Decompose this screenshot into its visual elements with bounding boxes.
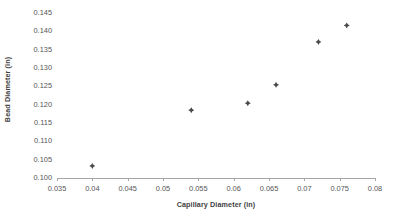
- y-tick-label: 0.140: [4, 26, 52, 35]
- x-tick-mark: [128, 178, 129, 181]
- x-tick-mark: [269, 178, 270, 181]
- data-point: [273, 82, 279, 88]
- scatter-chart: Bead Diameter (in) 0.1000.1050.1100.1150…: [0, 0, 404, 221]
- data-point: [315, 39, 321, 45]
- data-point: [188, 107, 194, 113]
- data-point: [89, 163, 95, 169]
- y-tick-label: 0.130: [4, 63, 52, 72]
- y-tick-label: 0.120: [4, 100, 52, 109]
- y-tick-label: 0.125: [4, 81, 52, 90]
- gridline-horizontal: [57, 178, 375, 179]
- x-axis-title: Capillary Diameter (in): [57, 200, 375, 209]
- y-tick-label: 0.115: [4, 118, 52, 127]
- x-tick-mark: [375, 178, 376, 181]
- data-point: [344, 22, 350, 28]
- y-tick-label: 0.110: [4, 136, 52, 145]
- x-tick-mark: [234, 178, 235, 181]
- x-tick-mark: [92, 178, 93, 181]
- data-point: [245, 100, 251, 106]
- x-tick-label: 0.08: [353, 184, 397, 193]
- x-tick-mark: [163, 178, 164, 181]
- x-tick-mark: [198, 178, 199, 181]
- x-tick-mark: [340, 178, 341, 181]
- x-tick-mark: [304, 178, 305, 181]
- y-tick-label: 0.105: [4, 155, 52, 164]
- y-tick-label: 0.100: [4, 173, 52, 182]
- x-tick-mark: [57, 178, 58, 181]
- y-tick-label: 0.135: [4, 45, 52, 54]
- y-tick-label: 0.145: [4, 8, 52, 17]
- plot-area: [57, 13, 375, 178]
